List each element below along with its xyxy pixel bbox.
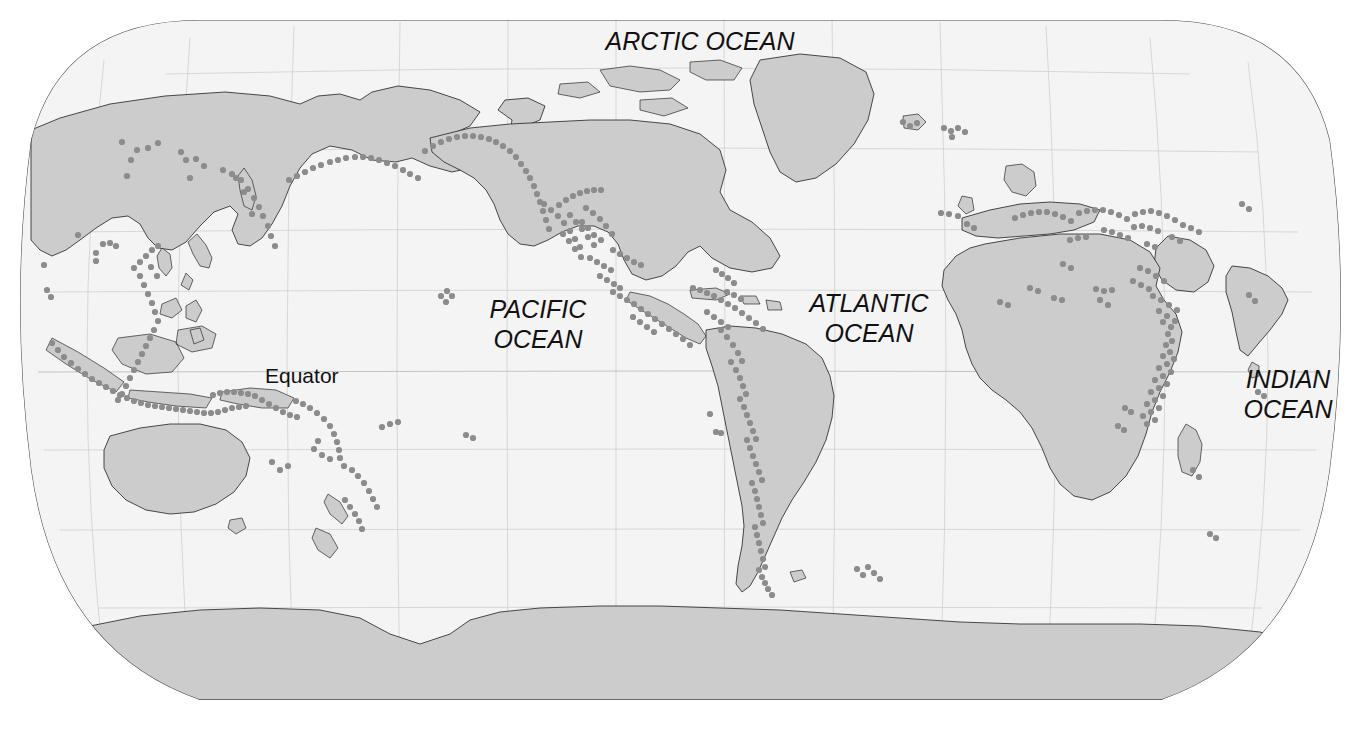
volcano-marker bbox=[131, 367, 137, 373]
volcano-marker bbox=[201, 410, 207, 416]
volcano-marker bbox=[1246, 292, 1252, 298]
volcano-marker bbox=[117, 392, 123, 398]
volcano-marker bbox=[1145, 268, 1151, 274]
volcano-marker bbox=[231, 389, 237, 395]
volcano-marker bbox=[374, 504, 380, 510]
volcano-marker bbox=[1093, 286, 1099, 292]
volcano-marker bbox=[1163, 342, 1169, 348]
volcano-marker bbox=[860, 572, 866, 578]
volcano-marker bbox=[268, 233, 274, 239]
volcano-marker bbox=[260, 213, 266, 219]
volcano-marker bbox=[1156, 405, 1162, 411]
volcano-marker bbox=[154, 273, 160, 279]
volcano-marker bbox=[352, 511, 358, 517]
volcano-marker bbox=[331, 431, 337, 437]
volcano-marker bbox=[287, 412, 293, 418]
volcano-marker bbox=[1156, 210, 1162, 216]
volcano-marker bbox=[713, 267, 719, 273]
volcano-marker bbox=[293, 398, 299, 404]
volcano-marker bbox=[1028, 210, 1034, 216]
volcano-marker bbox=[735, 350, 741, 356]
volcano-marker bbox=[1177, 238, 1183, 244]
volcano-marker bbox=[747, 420, 753, 426]
volcano-marker bbox=[361, 480, 367, 486]
volcano-marker bbox=[430, 143, 436, 149]
volcano-marker bbox=[1164, 313, 1170, 319]
volcano-marker bbox=[449, 293, 455, 299]
volcano-marker bbox=[356, 518, 362, 524]
volcano-marker bbox=[750, 453, 756, 459]
volcano-marker bbox=[493, 139, 499, 145]
volcano-marker bbox=[680, 336, 686, 342]
volcano-marker bbox=[971, 225, 977, 231]
volcano-marker bbox=[938, 210, 944, 216]
volcano-marker bbox=[577, 190, 583, 196]
volcano-marker bbox=[384, 160, 390, 166]
volcano-marker bbox=[644, 324, 650, 330]
volcano-marker bbox=[123, 383, 129, 389]
volcano-marker bbox=[756, 540, 762, 546]
volcano-marker bbox=[128, 157, 134, 163]
volcano-marker bbox=[1164, 361, 1170, 367]
volcano-marker bbox=[741, 404, 747, 410]
volcano-marker bbox=[690, 285, 696, 291]
volcano-marker bbox=[1147, 225, 1153, 231]
volcano-marker bbox=[307, 405, 313, 411]
volcano-marker bbox=[752, 524, 758, 530]
volcano-marker bbox=[750, 428, 756, 434]
volcano-marker bbox=[187, 175, 193, 181]
volcano-marker bbox=[1158, 297, 1164, 303]
volcano-marker bbox=[1156, 308, 1162, 314]
volcano-marker bbox=[376, 157, 382, 163]
label-pacific-ocean-line2: OCEAN bbox=[494, 325, 584, 353]
volcano-marker bbox=[143, 343, 149, 349]
volcano-marker bbox=[854, 566, 860, 572]
volcano-marker bbox=[566, 238, 572, 244]
volcano-marker bbox=[523, 168, 529, 174]
volcano-marker bbox=[1190, 467, 1196, 473]
volcano-marker bbox=[1144, 401, 1150, 407]
volcano-marker bbox=[941, 125, 947, 131]
volcano-marker bbox=[725, 275, 731, 281]
volcano-marker bbox=[900, 119, 906, 125]
volcano-marker bbox=[756, 567, 762, 573]
volcano-marker bbox=[1060, 261, 1066, 267]
volcano-marker bbox=[743, 391, 749, 397]
volcano-marker bbox=[673, 331, 679, 337]
volcano-marker bbox=[1122, 405, 1128, 411]
volcano-marker bbox=[1165, 331, 1171, 337]
volcano-marker bbox=[222, 407, 228, 413]
volcano-marker bbox=[454, 134, 460, 140]
volcano-marker bbox=[395, 419, 401, 425]
volcano-marker bbox=[318, 162, 324, 168]
volcano-marker bbox=[762, 580, 768, 586]
volcano-marker bbox=[1164, 381, 1170, 387]
volcano-marker bbox=[1161, 278, 1167, 284]
volcano-marker bbox=[1108, 209, 1114, 215]
label-pacific-ocean-line1: PACIFIC bbox=[490, 295, 588, 323]
volcano-marker bbox=[470, 133, 476, 139]
volcano-marker bbox=[907, 123, 913, 129]
volcano-marker bbox=[194, 409, 200, 415]
volcano-marker bbox=[241, 189, 247, 195]
volcano-marker bbox=[733, 367, 739, 373]
volcano-marker bbox=[359, 526, 365, 532]
volcano-marker bbox=[138, 400, 144, 406]
volcano-marker bbox=[370, 496, 376, 502]
volcano-marker bbox=[311, 446, 317, 452]
volcano-marker bbox=[131, 398, 137, 404]
volcano-marker bbox=[334, 439, 340, 445]
volcano-marker bbox=[585, 225, 591, 231]
volcano-marker bbox=[630, 314, 636, 320]
volcano-marker bbox=[335, 157, 341, 163]
volcano-marker bbox=[151, 327, 157, 333]
volcano-marker bbox=[652, 316, 658, 322]
volcano-marker bbox=[765, 586, 771, 592]
volcano-marker bbox=[478, 134, 484, 140]
volcano-marker bbox=[349, 467, 355, 473]
volcano-marker bbox=[527, 175, 533, 181]
volcano-marker bbox=[486, 136, 492, 142]
volcano-marker bbox=[1148, 208, 1154, 214]
volcano-marker bbox=[379, 424, 385, 430]
volcano-marker bbox=[1166, 302, 1172, 308]
